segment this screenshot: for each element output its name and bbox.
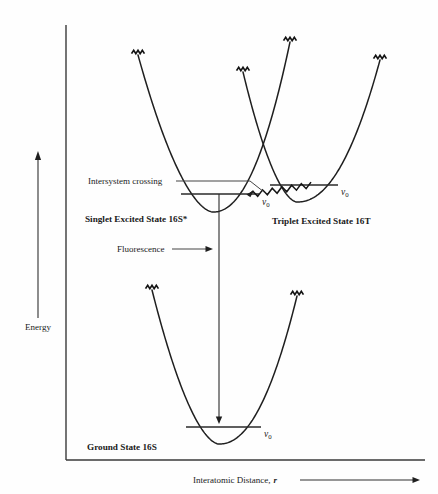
zigzag-squiggle-icon-triplet-excited-right: [374, 55, 387, 58]
zigzag-squiggle-icon-triplet-excited-left: [237, 67, 250, 70]
energy-arrow-head-icon: [35, 151, 41, 160]
v0-label-ground: v0: [264, 429, 272, 440]
zigzag-squiggle-icon-singlet-excited-left: [132, 50, 145, 53]
potential-curve-singlet-excited: [138, 42, 290, 212]
x-axis-label: Interatomic Distance,: [193, 475, 270, 485]
zigzag-squiggle-icon-ground-left: [146, 285, 159, 288]
zigzag-squiggle-icon-ground-right: [291, 291, 304, 294]
potential-energy-diagram: Energy Interatomic Distance, r: [0, 0, 438, 494]
continuum-marks-group: [132, 37, 387, 294]
potential-curves-group: [138, 42, 380, 444]
fluorescence-leader-arrow-head-icon: [206, 246, 214, 252]
ground-state-label: Ground State 16S: [87, 442, 157, 452]
intersystem-crossing-label: Intersystem crossing: [88, 176, 163, 186]
x-axis-arrow-head-icon: [413, 477, 421, 483]
fluorescence-arrow-head-icon: [216, 417, 222, 425]
triplet-excited-state-label: Triplet Excited State 16T: [272, 216, 371, 226]
zigzag-squiggle-icon-singlet-excited-right: [284, 37, 297, 40]
energy-axis-indicator: Energy: [25, 151, 51, 332]
x-axis-symbol-label: r: [273, 475, 277, 485]
y-axis-label: Energy: [25, 322, 51, 332]
v0-label-singlet-excited: v0: [262, 197, 270, 208]
fluorescence-label: Fluorescence: [117, 244, 164, 254]
x-axis-label-group: Interatomic Distance, r: [193, 475, 420, 485]
singlet-excited-state-label: Singlet Excited State 16S*: [85, 214, 188, 224]
v0-label-triplet-excited: v0: [341, 187, 349, 198]
diagram-canvas: Energy Interatomic Distance, r: [0, 0, 438, 494]
potential-curve-ground: [152, 290, 297, 444]
potential-curve-triplet-excited: [243, 60, 380, 202]
